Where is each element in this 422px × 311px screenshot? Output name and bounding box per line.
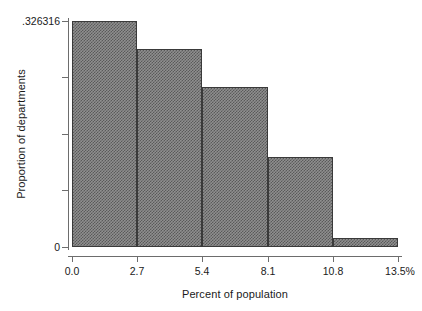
y-tick-mark-4 (62, 247, 68, 248)
x-tick-label-5: 13.5% (365, 265, 422, 278)
y-tick-mark-1 (62, 77, 68, 78)
x-tick-mark-3 (268, 257, 269, 262)
x-tick-label-1: 2.7 (102, 265, 172, 278)
plot-area (72, 21, 398, 247)
histogram-chart: Proportion of departments .326316 0 0.0 … (0, 0, 422, 311)
x-tick-mark-0 (72, 257, 73, 262)
x-tick-label-3: 8.1 (233, 265, 303, 278)
x-tick-mark-4 (333, 257, 334, 262)
x-tick-label-4: 10.8 (298, 265, 368, 278)
y-tick-mark-3 (62, 190, 68, 191)
histogram-bar (268, 157, 333, 247)
y-axis-line (68, 18, 69, 250)
x-tick-mark-1 (137, 257, 138, 262)
x-axis-title: Percent of population (68, 288, 402, 301)
x-tick-mark-2 (202, 257, 203, 262)
x-tick-mark-5 (398, 257, 399, 262)
y-tick-mark-2 (62, 134, 68, 135)
y-tick-label-0: .326316 (0, 15, 60, 27)
histogram-bar (202, 87, 267, 247)
y-tick-label-4: 0 (0, 241, 60, 253)
x-tick-label-2: 5.4 (167, 265, 237, 278)
x-tick-label-0: 0.0 (37, 265, 107, 278)
histogram-bar (72, 21, 137, 247)
x-axis-line (68, 256, 402, 257)
histogram-bar (333, 238, 398, 247)
y-tick-mark-0 (62, 21, 68, 22)
y-axis-title: Proportion of departments (14, 4, 28, 264)
histogram-bar (137, 49, 202, 247)
